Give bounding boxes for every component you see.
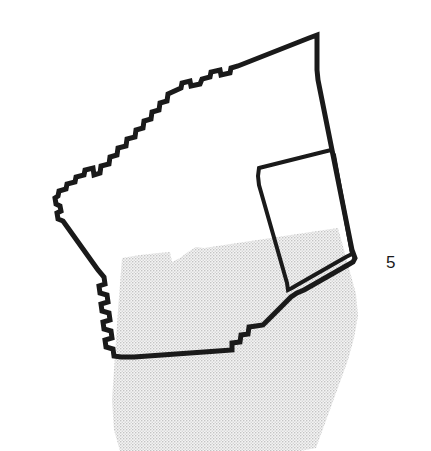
parcel-map-figure: ripped text baseline 5 [0, 0, 431, 451]
parcel-map-canvas [0, 0, 431, 451]
stippled-overlay-region [112, 228, 358, 451]
parcel-number-label: 5 [386, 254, 395, 271]
